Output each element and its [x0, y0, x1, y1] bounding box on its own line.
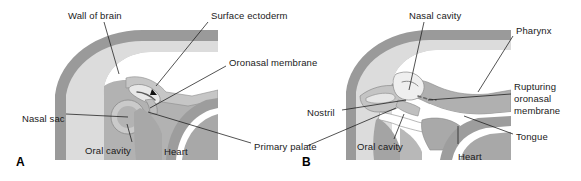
label-nasal-sac: Nasal sac	[22, 113, 65, 124]
label-rupturing-line2: oronasal	[514, 93, 551, 104]
label-nostril: Nostril	[307, 107, 335, 118]
label-heart-a: Heart	[164, 146, 188, 157]
label-tongue: Tongue	[516, 131, 548, 142]
label-oronasal-membrane: Oronasal membrane	[229, 57, 317, 68]
label-oral-cavity-a: Oral cavity	[85, 145, 131, 156]
label-rupturing-line1: Rupturing	[514, 81, 556, 92]
figure-oronasal-membrane-development: Wall of brain Surface ectoderm Oronasal …	[0, 0, 581, 181]
panel-letter-b: B	[302, 155, 311, 169]
label-rupturing-line3: membrane	[514, 105, 560, 116]
panel-a-drawing	[55, 30, 218, 160]
label-surface-ectoderm: Surface ectoderm	[211, 10, 288, 21]
label-wall-of-brain: Wall of brain	[68, 10, 122, 21]
panel-letter-a: A	[16, 155, 25, 169]
label-primary-palate: Primary palate	[254, 141, 317, 152]
label-pharynx: Pharynx	[516, 25, 552, 36]
label-heart-b: Heart	[458, 151, 482, 162]
label-nasal-cavity: Nasal cavity	[409, 10, 461, 21]
label-oral-cavity-b: Oral cavity	[357, 141, 403, 152]
